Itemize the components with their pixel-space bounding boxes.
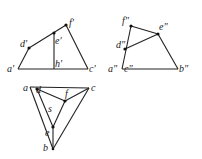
label-h-front: h' (55, 58, 63, 69)
front-view: a' h' c' d' e' f' (7, 17, 96, 74)
point-b-top (52, 148, 55, 151)
label-a-side: a" (108, 63, 118, 74)
label-c-front: c' (89, 63, 96, 74)
front-edge-a-d (18, 48, 29, 69)
point-f-front (64, 23, 67, 26)
label-s-top: s (48, 103, 52, 114)
projection-diagram: a' h' c' d' e' f' a" c" b" d" e" f" (0, 0, 202, 159)
top-view: a c d f s e b (23, 82, 96, 153)
label-d-side: d" (116, 39, 126, 50)
label-e-side: e" (159, 21, 168, 32)
label-e-top: e (45, 127, 50, 138)
label-a-top: a (23, 82, 28, 93)
point-f-side (129, 24, 132, 27)
side-view: a" c" b" d" e" f" (108, 15, 189, 74)
side-edge-f-e (131, 26, 158, 34)
point-e-top (51, 125, 54, 128)
point-d-front (27, 46, 30, 49)
label-c-top: c (91, 82, 96, 93)
label-d-top: d (36, 84, 42, 95)
label-a-front: a' (7, 63, 15, 74)
label-b-side: b" (179, 63, 189, 74)
label-b-top: b (43, 142, 48, 153)
side-edge-d-e (125, 34, 158, 49)
point-e-side (156, 32, 159, 35)
side-edge-e-b (158, 34, 178, 69)
point-f-top (63, 99, 66, 102)
front-edge-f-c (66, 25, 88, 69)
label-f-top: f (65, 88, 69, 99)
label-f-front: f' (69, 17, 75, 28)
label-c-side: c" (124, 63, 133, 74)
label-d-front: d' (20, 38, 28, 49)
label-e-front: e' (55, 35, 62, 46)
label-f-side: f" (122, 15, 130, 26)
top-edge-f-e (53, 101, 65, 127)
